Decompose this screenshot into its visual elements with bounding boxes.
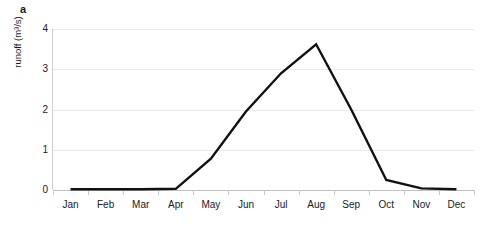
figure-panel-a: a runoff (m³/s) 01234 JanFebMarAprMayJun…: [0, 0, 500, 230]
series-line-runoff: [71, 44, 457, 189]
data-series-layer: [0, 0, 500, 230]
